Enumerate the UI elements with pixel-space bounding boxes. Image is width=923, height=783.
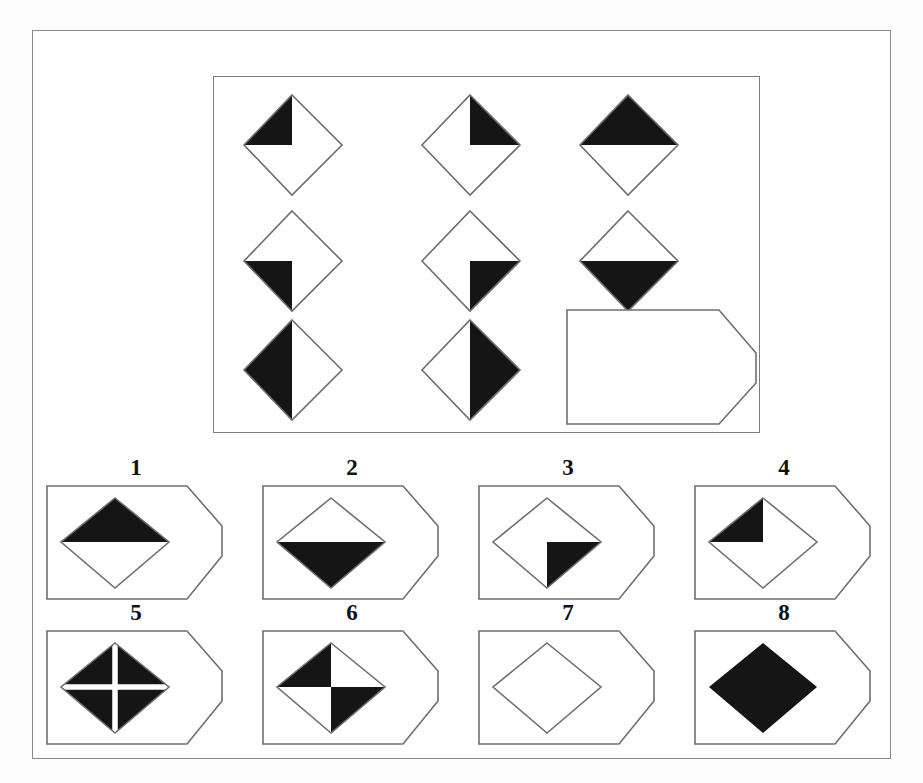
- matrix-cell-r2c2: [410, 205, 582, 317]
- diamond-top-right-filled: [410, 89, 582, 201]
- option-1[interactable]: 1: [45, 484, 227, 602]
- tag-shape[interactable]: [479, 631, 654, 744]
- option-8[interactable]: 8: [693, 629, 875, 747]
- matrix-cell-r2c1: [232, 205, 404, 317]
- option-7[interactable]: 7: [477, 629, 659, 747]
- matrix-cell-r3c1: [232, 314, 404, 426]
- matrix-cell-r1c3: [568, 89, 740, 201]
- option-2-label: 2: [261, 455, 443, 481]
- half-right: [470, 320, 520, 420]
- option-8-label: 8: [693, 600, 875, 626]
- option-4-graphic[interactable]: [693, 484, 875, 602]
- option-4[interactable]: 4: [693, 484, 875, 602]
- tag-shape[interactable]: [695, 486, 870, 599]
- tag-shape[interactable]: [567, 310, 756, 424]
- option-5-graphic[interactable]: [45, 629, 227, 747]
- diamond-top-left-filled: [232, 89, 404, 201]
- matrix-cell-r3c3-blank[interactable]: [564, 307, 760, 427]
- diamond-bottom-half-filled: [568, 205, 740, 317]
- half-bottom: [580, 261, 678, 311]
- matrix-cell-r2c3: [568, 205, 740, 317]
- option-5[interactable]: 5: [45, 629, 227, 747]
- matrix-cell-r1c1: [232, 89, 404, 201]
- option-4-label: 4: [693, 455, 875, 481]
- diamond-bottom-left-filled: [232, 205, 404, 317]
- option-3-graphic[interactable]: [477, 484, 659, 602]
- matrix-panel: [213, 76, 760, 433]
- matrix-cell-r3c2: [410, 314, 582, 426]
- half-top: [580, 95, 678, 145]
- half-left: [244, 320, 292, 420]
- option-7-label: 7: [477, 600, 659, 626]
- matrix-puzzle-root: 1 2 3 4: [0, 0, 923, 783]
- outer-frame: 1 2 3 4: [32, 30, 891, 759]
- tag-shape[interactable]: [47, 486, 222, 599]
- diamond-left-half-filled: [232, 314, 404, 426]
- option-2[interactable]: 2: [261, 484, 443, 602]
- option-7-graphic[interactable]: [477, 629, 659, 747]
- option-6-label: 6: [261, 600, 443, 626]
- blank-answer-tag[interactable]: [564, 307, 760, 427]
- diamond-right-half-filled: [410, 314, 582, 426]
- option-3[interactable]: 3: [477, 484, 659, 602]
- diamond-top-half-filled: [568, 89, 740, 201]
- matrix-cell-r1c2: [410, 89, 582, 201]
- option-3-label: 3: [477, 455, 659, 481]
- option-6-graphic[interactable]: [261, 629, 443, 747]
- option-1-label: 1: [45, 455, 227, 481]
- option-8-graphic[interactable]: [693, 629, 875, 747]
- option-5-label: 5: [45, 600, 227, 626]
- option-2-graphic[interactable]: [261, 484, 443, 602]
- diamond-bottom-right-filled: [410, 205, 582, 317]
- option-1-graphic[interactable]: [45, 484, 227, 602]
- option-6[interactable]: 6: [261, 629, 443, 747]
